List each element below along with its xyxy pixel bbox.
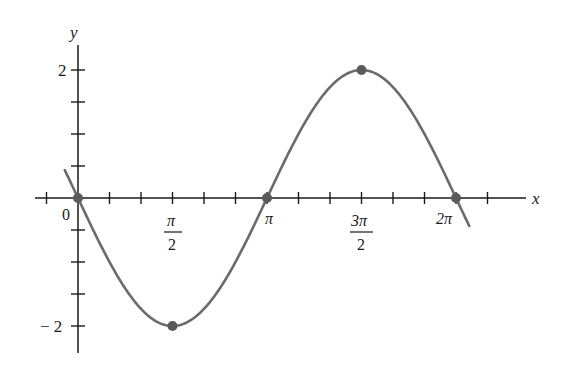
x-tick-label-pi-half-num: π	[167, 212, 176, 229]
x-tick-label-3pi-half-den: 2	[357, 236, 365, 253]
y-tick-label-2: 2	[58, 61, 67, 80]
y-axis-label: y	[68, 23, 78, 42]
x-tick-label-3pi-half-num: 3π	[350, 212, 368, 229]
x-tick-label-2pi: 2π	[436, 210, 453, 227]
marked-point	[357, 65, 367, 75]
y-tick-label-neg2: − 2	[40, 317, 62, 336]
x-tick-label-pi-half-den: 2	[168, 236, 176, 253]
marked-point	[262, 193, 272, 203]
x-tick-label-pi: π	[265, 210, 274, 227]
marked-point	[168, 321, 178, 331]
sine-graph: y x 0 2 − 2 π 2 π 3π 2 2π	[0, 0, 570, 376]
origin-label: 0	[62, 206, 70, 223]
marked-point	[73, 193, 83, 203]
marked-point	[451, 193, 461, 203]
x-axis-label: x	[531, 189, 540, 208]
